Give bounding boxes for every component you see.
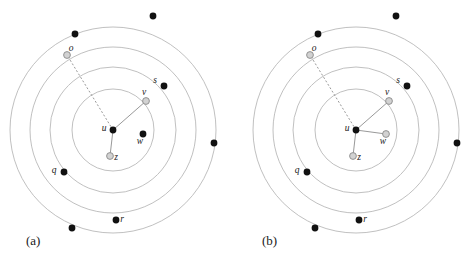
panel-a-node-r[interactable] <box>113 217 120 224</box>
panel-a-edge-u-v <box>113 101 146 130</box>
panel-a-node-q[interactable] <box>61 169 68 176</box>
panel-b-outer-dot-bottom-left <box>312 225 319 232</box>
panel-a-outer-dot-top <box>150 13 157 20</box>
panel-b-edge-u-z <box>353 130 356 156</box>
panel-b-node-label-q: q <box>295 165 300 175</box>
panel-a-node-z[interactable] <box>107 153 114 160</box>
panel-b-outer-dot-right <box>454 140 461 147</box>
panel-b-node-label-r: r <box>363 214 367 224</box>
panel-b-node-u[interactable] <box>353 127 360 134</box>
panel-b-outer-dot-top <box>393 13 400 20</box>
panel-b-node-v[interactable] <box>386 98 393 105</box>
panel-a-node-label-s: s <box>153 75 157 85</box>
panel-a-node-s[interactable] <box>161 83 168 90</box>
panel-b-node-label-s: s <box>396 75 400 85</box>
panel-b: uovzwsqr <box>253 13 460 233</box>
panel-b-node-r[interactable] <box>356 217 363 224</box>
panel-b-caption: (b) <box>262 233 277 249</box>
panel-b-node-label-v: v <box>385 87 390 97</box>
panel-b-node-label-o: o <box>312 43 317 53</box>
panel-a-edge-u-z <box>110 130 113 156</box>
panel-a-node-u[interactable] <box>110 127 117 134</box>
panel-b-edge-u-v <box>356 101 389 130</box>
panel-a: uovzwsqr <box>10 13 217 233</box>
panel-a-node-v[interactable] <box>143 98 150 105</box>
panel-a-caption: (a) <box>26 233 40 249</box>
panel-b-node-q[interactable] <box>304 169 311 176</box>
panel-a-outer-dot-bottom-left <box>69 225 76 232</box>
panel-b-node-label-w: w <box>380 136 387 146</box>
panel-b-outer-dot-upper-left <box>315 31 322 38</box>
panel-b-edge-u-w <box>356 130 386 134</box>
panel-a-node-label-w: w <box>137 136 144 146</box>
panel-b-node-z[interactable] <box>350 153 357 160</box>
panel-b-node-label-u: u <box>345 123 350 133</box>
panel-a-outer-dot-right <box>211 140 218 147</box>
figure-canvas: uovzwsqruovzwsqr <box>0 0 472 261</box>
figure-container: uovzwsqruovzwsqr (a) (b) <box>0 0 472 261</box>
panel-b-node-label-z: z <box>356 152 361 162</box>
panel-a-node-label-r: r <box>120 214 124 224</box>
panel-a-node-label-o: o <box>69 43 74 53</box>
panel-a-node-label-q: q <box>52 165 57 175</box>
panel-a-node-label-u: u <box>102 123 107 133</box>
panel-a-node-label-z: z <box>113 152 118 162</box>
panel-b-node-s[interactable] <box>404 83 411 90</box>
panel-a-outer-dot-upper-left <box>72 31 79 38</box>
panel-a-node-label-v: v <box>142 87 147 97</box>
